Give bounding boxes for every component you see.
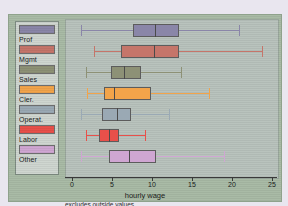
- x-axis-label: hourly wage: [9, 191, 281, 200]
- box-iqr: [109, 150, 156, 163]
- whisker-low: [81, 114, 103, 115]
- whisker-cap-high: [224, 151, 225, 162]
- whisker-high: [156, 156, 224, 157]
- median-line: [117, 108, 118, 121]
- median-line: [129, 150, 130, 163]
- whisker-cap-low: [81, 151, 82, 162]
- median-line: [154, 45, 155, 58]
- whisker-cap-high: [262, 46, 263, 57]
- whisker-cap-low: [86, 130, 87, 141]
- x-axis-line: [65, 177, 277, 178]
- x-tick-label: 0: [70, 181, 74, 188]
- whisker-low: [87, 93, 104, 94]
- whisker-high: [119, 135, 145, 136]
- whisker-high: [151, 93, 209, 94]
- x-tick-label: 10: [148, 181, 156, 188]
- whisker-cap-low: [81, 109, 82, 120]
- boxplot-row: [9, 63, 281, 83]
- whisker-cap-low: [87, 88, 88, 99]
- whisker-cap-low: [81, 25, 82, 36]
- box-iqr: [104, 87, 151, 100]
- whisker-cap-high: [181, 67, 182, 78]
- median-line: [124, 66, 125, 79]
- whisker-high: [179, 30, 239, 31]
- x-tick-label: 20: [228, 181, 236, 188]
- boxplot-row: [9, 105, 281, 125]
- whisker-cap-high: [239, 25, 240, 36]
- whisker-cap-high: [209, 88, 210, 99]
- x-tick-label: 15: [188, 181, 196, 188]
- whisker-high: [179, 51, 262, 52]
- boxplot-chart-card: ProfMgmtSalesCler.Operat.LaborOther 0510…: [8, 14, 282, 202]
- whisker-cap-low: [86, 67, 87, 78]
- x-tick-label: 25: [268, 181, 276, 188]
- boxplot-row: [9, 147, 281, 167]
- chart-note: excludes outside values: [65, 201, 134, 206]
- median-line: [109, 129, 110, 142]
- whisker-low: [81, 156, 109, 157]
- whisker-low: [81, 30, 133, 31]
- median-line: [155, 24, 156, 37]
- whisker-low: [86, 135, 99, 136]
- x-tick-label: 5: [110, 181, 114, 188]
- whisker-cap-low: [94, 46, 95, 57]
- whisker-cap-high: [145, 130, 146, 141]
- whisker-high: [141, 72, 181, 73]
- boxplot-row: [9, 84, 281, 104]
- box-iqr: [121, 45, 179, 58]
- boxplot-row: [9, 42, 281, 62]
- whisker-low: [94, 51, 120, 52]
- box-iqr: [111, 66, 141, 79]
- boxplot-row: [9, 21, 281, 41]
- whisker-low: [86, 72, 111, 73]
- screenshot-page: ProfMgmtSalesCler.Operat.LaborOther 0510…: [0, 0, 288, 206]
- median-line: [114, 87, 115, 100]
- whisker-cap-high: [169, 109, 170, 120]
- boxplot-row: [9, 126, 281, 146]
- whisker-high: [131, 114, 169, 115]
